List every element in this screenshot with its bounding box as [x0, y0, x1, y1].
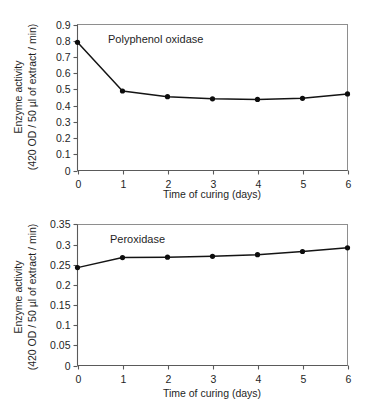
y-tick-marks	[74, 26, 78, 172]
series-line-polyphenol-oxidase	[78, 42, 348, 99]
svg-text:5: 5	[301, 178, 307, 190]
svg-text:0: 0	[76, 178, 82, 190]
x-tick-marks	[79, 171, 349, 175]
svg-text:2: 2	[166, 373, 172, 385]
svg-text:0.4: 0.4	[56, 100, 71, 112]
x-axis-title: Time of curing (days)	[163, 387, 261, 399]
y-axis-title-line2: (420 OD / 50 µl of extract / min)	[26, 24, 38, 171]
y-tick-marks	[74, 225, 78, 367]
svg-text:3: 3	[211, 373, 217, 385]
svg-text:0: 0	[76, 373, 82, 385]
series-label-peroxidase: Peroxidase	[110, 233, 165, 245]
svg-text:0.8: 0.8	[56, 35, 71, 47]
svg-text:0.3: 0.3	[56, 116, 71, 128]
svg-text:6: 6	[346, 373, 352, 385]
svg-text:1: 1	[121, 373, 127, 385]
y-axis-title-line1: Enzyme activity	[12, 60, 24, 134]
svg-text:0.1: 0.1	[56, 148, 71, 160]
series-markers-polyphenol-oxidase	[75, 40, 350, 102]
svg-text:0.25: 0.25	[50, 259, 71, 271]
polyphenol-oxidase-panel: 00.10.20.30.40.50.60.70.80.9 0123456 Pol…	[0, 0, 365, 205]
svg-text:0.05: 0.05	[50, 339, 71, 351]
svg-text:4: 4	[256, 373, 262, 385]
svg-text:0: 0	[65, 360, 71, 372]
svg-text:6: 6	[346, 178, 352, 190]
series-markers-peroxidase	[75, 245, 350, 270]
y-axis-title-line1: Enzyme activity	[12, 260, 24, 334]
series-label-polyphenol-oxidase: Polyphenol oxidase	[108, 33, 203, 45]
x-tick-marks	[79, 366, 349, 370]
svg-text:0.9: 0.9	[56, 19, 71, 31]
figure-two-enzyme-activity-charts: 00.10.20.30.40.50.60.70.80.9 0123456 Pol…	[0, 0, 365, 415]
svg-text:0.1: 0.1	[56, 319, 71, 331]
plot-frame	[78, 225, 348, 366]
svg-text:0.6: 0.6	[56, 67, 71, 79]
peroxidase-panel: 00.050.10.150.20.250.30.35 0123456 Perox…	[0, 205, 365, 415]
svg-text:0.3: 0.3	[56, 239, 71, 251]
polyphenol-oxidase-plot: 00.10.20.30.40.50.60.70.80.9 0123456 Pol…	[0, 0, 365, 205]
svg-text:0.7: 0.7	[56, 51, 71, 63]
y-tick-labels: 00.050.10.150.20.250.30.35	[50, 218, 71, 372]
x-tick-labels: 0123456	[76, 373, 352, 385]
svg-text:1: 1	[121, 178, 127, 190]
svg-text:0.35: 0.35	[50, 218, 71, 230]
x-axis-title: Time of curing (days)	[163, 188, 261, 200]
svg-text:5: 5	[301, 373, 307, 385]
svg-text:0.2: 0.2	[56, 132, 71, 144]
y-tick-labels: 00.10.20.30.40.50.60.70.80.9	[56, 19, 71, 177]
svg-text:0.5: 0.5	[56, 83, 71, 95]
svg-text:0.2: 0.2	[56, 279, 71, 291]
svg-text:0.15: 0.15	[50, 299, 71, 311]
svg-text:0: 0	[65, 165, 71, 177]
peroxidase-plot: 00.050.10.150.20.250.30.35 0123456 Perox…	[0, 205, 365, 415]
y-axis-title-line2: (420 OD / 50 µl of extract / min)	[26, 224, 38, 371]
